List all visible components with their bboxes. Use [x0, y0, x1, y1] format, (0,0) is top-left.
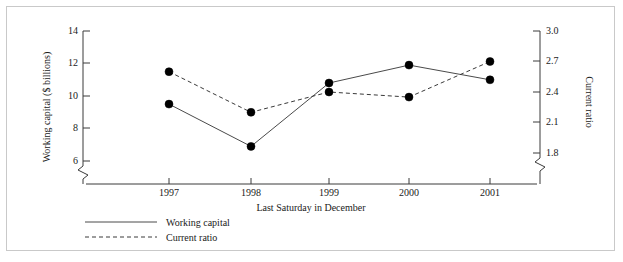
right-tick-label-1-8: 1.8 — [546, 147, 559, 158]
x-tick-label-1997: 1997 — [159, 187, 179, 198]
x-tick-label-1998: 1998 — [241, 187, 261, 198]
left-axis-group: 14 12 10 8 6 Working capital ($ billions… — [41, 25, 90, 184]
data-point-marker — [405, 61, 413, 69]
left-tick-label-10: 10 — [68, 90, 78, 101]
legend-label-working-capital: Working capital — [166, 217, 230, 228]
working-capital-markers — [165, 61, 494, 150]
right-axis-title: Current ratio — [584, 76, 595, 127]
data-point-marker — [165, 68, 173, 76]
left-axis-break-icon — [78, 161, 88, 184]
right-axis-group: 3.0 2.7 2.4 2.1 1.8 Current ratio — [533, 25, 595, 184]
legend-item-current-ratio: Current ratio — [85, 232, 217, 243]
chart-page: 14 12 10 8 6 Working capital ($ billions… — [0, 0, 623, 262]
left-tick-label-14: 14 — [68, 25, 78, 36]
right-axis-break-icon — [535, 153, 545, 184]
series-working-capital — [165, 61, 494, 150]
legend-label-current-ratio: Current ratio — [166, 232, 217, 243]
data-point-marker — [325, 88, 333, 96]
left-tick-label-12: 12 — [68, 57, 78, 68]
left-axis-title: Working capital ($ billions) — [41, 52, 53, 163]
x-axis-group: 1997 1998 1999 2000 2001 Last Saturday i… — [86, 178, 537, 213]
data-point-marker — [165, 100, 173, 108]
right-tick-label-2-4: 2.4 — [546, 86, 559, 97]
right-tick-label-3-0: 3.0 — [546, 25, 559, 36]
right-tick-label-2-7: 2.7 — [546, 55, 559, 66]
x-tick-label-1999: 1999 — [319, 187, 339, 198]
chart-legend: Working capital Current ratio — [85, 217, 230, 243]
data-point-marker — [325, 79, 333, 87]
working-capital-current-ratio-chart: 14 12 10 8 6 Working capital ($ billions… — [0, 0, 623, 262]
x-tick-label-2001: 2001 — [480, 187, 500, 198]
left-tick-label-8: 8 — [73, 122, 78, 133]
data-point-marker — [486, 76, 494, 84]
data-point-marker — [405, 93, 413, 101]
x-axis-title: Last Saturday in December — [256, 202, 366, 213]
data-point-marker — [486, 58, 494, 66]
right-tick-label-2-1: 2.1 — [546, 116, 559, 127]
legend-item-working-capital: Working capital — [85, 217, 230, 228]
left-tick-label-6: 6 — [73, 155, 78, 166]
working-capital-line — [169, 65, 490, 146]
data-point-marker — [247, 142, 255, 150]
x-tick-label-2000: 2000 — [399, 187, 419, 198]
data-point-marker — [247, 108, 255, 116]
